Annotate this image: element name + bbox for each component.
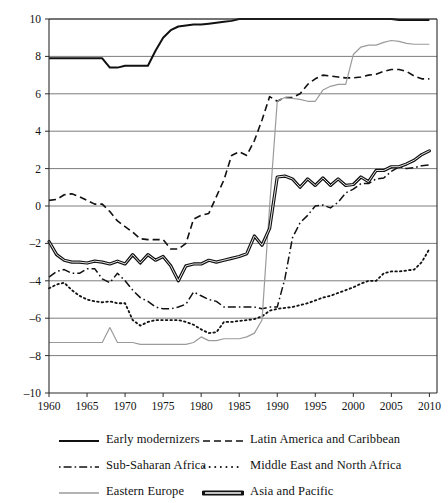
y-tick-label: –8 xyxy=(29,350,42,362)
legend-swatch-solid-gray-icon xyxy=(58,485,100,497)
y-axis-tick-labels: 1086420–2–4–6–8–10 xyxy=(23,13,49,399)
legend-item-latin-america-and-caribbean: Latin America and Caribbean xyxy=(202,432,448,447)
y-tick-label: 8 xyxy=(35,50,41,62)
x-tick-label: 1960 xyxy=(38,400,61,412)
legend-swatch-dashed-icon xyxy=(202,433,244,445)
y-tick-label: –4 xyxy=(29,275,42,287)
chart-figure: 1086420–2–4–6–8–10 196019651970197519801… xyxy=(0,0,448,503)
x-tick-label: 1970 xyxy=(114,400,137,412)
chart-legend: Early modernizersLatin America and Carib… xyxy=(0,420,448,503)
legend-item-middle-east-and-north-africa: Middle East and North Africa xyxy=(202,458,448,473)
y-tick-label: –6 xyxy=(29,312,42,324)
x-tick-label: 1985 xyxy=(228,400,251,412)
y-tick-label: 10 xyxy=(30,13,42,25)
x-tick-label: 2000 xyxy=(342,400,365,412)
series-line-1 xyxy=(49,69,429,249)
legend-item-eastern-europe: Eastern Europe xyxy=(0,484,202,499)
x-tick-label: 1980 xyxy=(190,400,213,412)
legend-swatch-solid-dark-icon xyxy=(58,433,100,445)
series-line-5-inner xyxy=(49,151,429,281)
legend-label-eastern-europe: Eastern Europe xyxy=(106,484,184,499)
gridlines xyxy=(49,19,437,356)
series-lines xyxy=(49,19,429,344)
series-line-0 xyxy=(49,19,429,68)
x-tick-label: 2005 xyxy=(380,400,403,412)
x-tick-label: 1975 xyxy=(152,400,175,412)
x-tick-label: 2010 xyxy=(418,400,441,412)
legend-label-asia-and-pacific: Asia and Pacific xyxy=(250,484,334,499)
series-line-5-outer xyxy=(49,151,429,281)
legend-swatch-dotted-icon xyxy=(202,459,244,471)
legend-item-sub-saharan-africa: Sub-Saharan Africa xyxy=(0,458,202,473)
legend-item-early-modernizers: Early modernizers xyxy=(0,432,202,447)
y-tick-label: –10 xyxy=(23,387,42,399)
y-tick-label: 4 xyxy=(35,125,41,137)
legend-label-latin-america-and-caribbean: Latin America and Caribbean xyxy=(250,432,400,447)
legend-swatch-thick-icon xyxy=(202,485,244,497)
x-tick-label: 1990 xyxy=(266,400,289,412)
legend-label-middle-east-and-north-africa: Middle East and North Africa xyxy=(250,458,401,473)
series-line-4 xyxy=(49,41,429,345)
x-tick-label: 1995 xyxy=(304,400,327,412)
x-tick-label: 1965 xyxy=(76,400,99,412)
legend-item-asia-and-pacific: Asia and Pacific xyxy=(202,484,448,499)
y-tick-label: –2 xyxy=(29,237,42,249)
legend-label-early-modernizers: Early modernizers xyxy=(106,432,200,447)
legend-grid: Early modernizersLatin America and Carib… xyxy=(0,426,448,503)
line-chart-plot: 1086420–2–4–6–8–10 196019651970197519801… xyxy=(0,0,448,420)
y-tick-label: 2 xyxy=(35,163,41,175)
y-tick-label: 0 xyxy=(35,200,41,212)
legend-swatch-dashdot-icon xyxy=(58,459,100,471)
legend-label-sub-saharan-africa: Sub-Saharan Africa xyxy=(106,458,206,473)
y-tick-label: 6 xyxy=(35,88,41,100)
x-axis-tick-labels: 1960196519701975198019851990199520002005… xyxy=(38,393,442,412)
series-line-2 xyxy=(49,165,429,309)
